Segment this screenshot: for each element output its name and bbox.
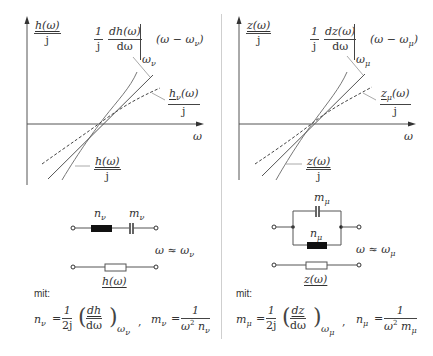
x-axis-arrow-icon [408,122,416,127]
terminal-icon [71,265,75,269]
terminal-icon [71,226,75,230]
terminal-icon [272,225,276,229]
approx-condition: ω ≈ ωμ [356,244,395,258]
x-axis-arrow-icon [196,122,204,127]
leader-line [363,93,376,100]
approximation-label: zμ(ω)j [380,88,411,118]
terminal-icon [357,225,361,229]
capacitor-label: mμ [314,192,330,206]
inductor-element-icon [307,242,327,249]
right-panel-parallel-resonance: z(ω)j 1j dz(ω)dω ωμ (ω − ωμ) zμ(ω)j z(ω)… [216,0,433,356]
terminal-icon [154,265,158,269]
x-axis-label: ω [404,131,413,142]
impedance-label: z(ω) [304,274,327,285]
terminal-icon [154,226,158,230]
capacitor-label: mν [129,208,144,222]
inductor-element-icon [91,225,112,232]
curve-label: h(ω)j [94,156,121,183]
y-axis-arrow-icon [237,16,242,24]
y-axis-label: h(ω)j [34,20,61,47]
x-axis-label: ω [193,131,202,142]
inductor-label: nμ [310,228,322,242]
y-axis-label: z(ω)j [246,20,271,47]
formula: mμ = 12j ( dzdω ) ωμ , nμ = 1ω2 mμ [236,300,426,340]
left-panel-series-resonance: h(ω)j 1j dh(ω)dω ων (ω − ων) hν(ω)j h(ω)… [0,0,216,356]
y-axis-arrow-icon [25,16,30,24]
impedance-label: h(ω) [102,276,127,287]
terminal-icon [272,263,276,267]
impedance-element-icon [306,262,327,269]
mit-label: mit: [34,288,50,299]
inductor-label: nν [94,208,106,222]
impedance-element-icon [105,264,126,271]
terminal-icon [357,263,361,267]
approx-condition: ω ≈ ων [155,245,194,259]
curve-label: z(ω)j [306,156,331,183]
formula: nν = 12j ( dhdω ) ων , mν = 1ω2 nν [34,300,214,340]
approximation-label: hν(ω)j [168,88,200,118]
mit-label: mit: [236,288,252,299]
leader-line [152,93,165,100]
